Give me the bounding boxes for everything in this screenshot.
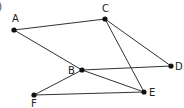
- edge-c-d: [105, 19, 171, 66]
- node-label-b: B: [68, 65, 75, 76]
- nodes-group: ACBDFE: [11, 3, 183, 108]
- edge-c-e: [105, 19, 144, 92]
- graph-diagram: ) ACBDFE: [0, 0, 184, 108]
- node-f: [31, 92, 36, 97]
- edge-b-e: [82, 70, 144, 92]
- node-label-e: E: [149, 87, 155, 98]
- edge-a-c: [14, 19, 105, 30]
- node-c: [102, 16, 107, 21]
- edge-f-e: [34, 92, 144, 95]
- edge-b-d: [82, 66, 171, 70]
- node-label-a: A: [12, 13, 19, 24]
- node-label-d: D: [175, 61, 183, 72]
- corner-mark: ): [0, 0, 2, 13]
- node-label-c: C: [102, 3, 109, 14]
- node-a: [11, 27, 16, 32]
- node-d: [168, 63, 173, 68]
- node-e: [141, 89, 146, 94]
- edges-group: [14, 19, 171, 95]
- node-b: [79, 67, 84, 72]
- edge-a-b: [14, 30, 82, 70]
- node-label-f: F: [31, 98, 37, 108]
